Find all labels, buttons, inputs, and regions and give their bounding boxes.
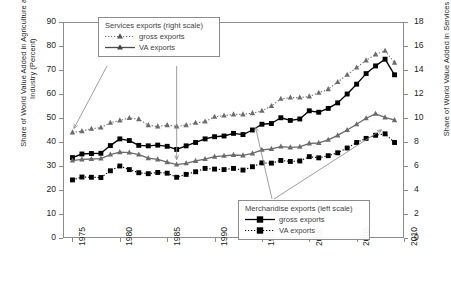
legend-merchandise-va-label: VA exports [279, 226, 315, 235]
legend-merchandise-title: Merchandise exports (left scale) [245, 204, 363, 213]
legend-services-exports: Services exports (right scale) gross exp… [98, 17, 220, 57]
legend-swatch-solid-square-icon [245, 215, 275, 224]
legend-services-va: VA exports [105, 43, 213, 52]
legend-merchandise-va: VA exports [245, 226, 363, 235]
legend-services-gross: gross exports [105, 32, 213, 41]
legend-swatch-dotted-triangle-icon [105, 32, 135, 41]
legend-services-va-label: VA exports [139, 43, 175, 52]
legend-swatch-solid-triangle-icon [105, 43, 135, 52]
leader-merch-va [274, 130, 382, 199]
leader-services-gross [74, 66, 107, 128]
legend-merchandise-exports: Merchandise exports (left scale) gross e… [238, 200, 370, 240]
legend-merchandise-gross-label: gross exports [279, 215, 325, 224]
legend-merchandise-gross: gross exports [245, 215, 363, 224]
legend-swatch-dotted-square-icon [245, 226, 275, 235]
legend-services-title: Services exports (right scale) [105, 21, 213, 30]
legend-services-gross-label: gross exports [139, 32, 185, 41]
leader-merch-gross [255, 127, 272, 199]
